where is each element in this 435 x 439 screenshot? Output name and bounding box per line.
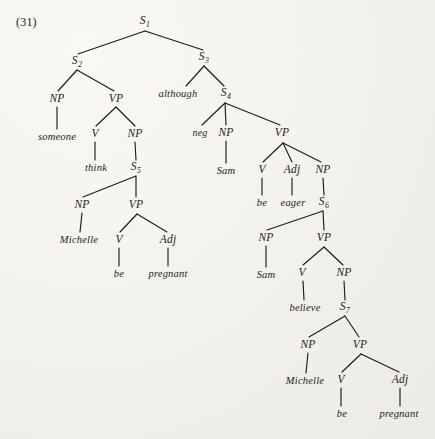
tree-node-label: NP <box>218 126 233 138</box>
tree-node-label: eager <box>281 197 306 208</box>
tree-node-np_someone: NP <box>49 93 64 105</box>
tree-node-label: NP <box>127 127 142 139</box>
tree-node-s1: S1 <box>140 15 150 28</box>
tree-node-pregnant1: pregnant <box>148 269 187 280</box>
tree-node-michelle1: Michelle <box>60 235 98 246</box>
tree-node-label: Michelle <box>60 234 98 245</box>
tree-edge <box>80 213 82 232</box>
tree-node-label: believe <box>289 302 320 313</box>
tree-edge <box>303 247 324 265</box>
tree-node-np_michelle2: NP <box>300 339 315 351</box>
tree-node-label: V <box>91 127 98 139</box>
tree-node-label: V <box>115 233 122 245</box>
tree-node-vp_be1: VP <box>129 199 143 211</box>
tree-node-vp_believe: VP <box>317 232 331 244</box>
tree-node-adj_preg2: Adj <box>392 374 409 386</box>
tree-node-label: VP <box>109 92 123 104</box>
tree-node-label: NP <box>49 92 64 104</box>
tree-edge <box>202 103 225 125</box>
tree-edge <box>324 247 343 265</box>
tree-edge <box>58 70 77 91</box>
tree-node-neg: neg <box>192 128 207 138</box>
tree-node-sam1: Sam <box>217 166 236 177</box>
tree-node-subscript: 2 <box>78 60 82 69</box>
tree-node-v_believe: V <box>298 267 305 279</box>
tree-node-label: pregnant <box>148 268 187 279</box>
tree-node-label: V <box>258 163 265 175</box>
tree-node-v_think: V <box>91 128 98 140</box>
tree-node-label: someone <box>38 131 76 142</box>
tree-node-label: Adj <box>284 163 301 175</box>
tree-node-np_s7: NP <box>336 267 351 279</box>
tree-edge <box>120 214 137 232</box>
tree-edge <box>96 107 116 126</box>
tree-node-someone: someone <box>38 132 76 143</box>
tree-node-adj_eager: Adj <box>284 164 301 176</box>
tree-node-label: NP <box>74 198 89 210</box>
tree-edge <box>225 103 280 125</box>
tree-node-v_be2: V <box>115 234 122 246</box>
tree-node-label: NP <box>336 266 351 278</box>
tree-node-think: think <box>85 163 107 174</box>
tree-node-v_be1: V <box>258 164 265 176</box>
tree-edge <box>225 103 226 125</box>
tree-edge <box>283 143 321 162</box>
tree-node-np_s5: NP <box>127 128 142 140</box>
tree-node-np_michelle1: NP <box>74 199 89 211</box>
tree-node-label: NP <box>315 163 330 175</box>
tree-node-np_sam1: NP <box>218 127 233 139</box>
tree-node-v_be3: V <box>337 374 344 386</box>
tree-node-vp_be2: VP <box>353 339 367 351</box>
tree-node-label: NP <box>258 231 273 243</box>
tree-node-label: VP <box>275 126 289 138</box>
tree-node-subscript: 5 <box>137 166 141 175</box>
tree-node-label: VP <box>353 338 367 350</box>
tree-edge <box>204 66 224 86</box>
tree-edge <box>267 211 323 230</box>
tree-edge <box>135 142 136 160</box>
tree-node-vp_eager: VP <box>275 127 289 139</box>
tree-node-s5: S5 <box>131 161 141 174</box>
tree-branches <box>0 0 435 439</box>
tree-node-subscript: 7 <box>346 306 350 315</box>
tree-node-label: Michelle <box>286 375 324 386</box>
tree-node-be2: be <box>114 269 124 280</box>
tree-node-label: think <box>85 162 107 173</box>
tree-edge <box>303 281 304 300</box>
tree-node-s3: S3 <box>199 51 209 64</box>
tree-node-np_sam2: NP <box>258 232 273 244</box>
tree-edge <box>306 353 308 373</box>
tree-node-vp_think: VP <box>109 93 123 105</box>
tree-node-label: neg <box>192 127 207 138</box>
tree-node-subscript: 3 <box>205 56 209 65</box>
tree-node-label: although <box>159 88 198 99</box>
tree-node-label: pregnant <box>379 408 418 419</box>
tree-node-subscript: 6 <box>325 201 329 210</box>
tree-node-adj_preg1: Adj <box>160 234 177 246</box>
tree-edge <box>116 107 135 126</box>
tree-node-label: Sam <box>257 269 276 280</box>
tree-node-although: although <box>159 89 198 100</box>
tree-node-subscript: 4 <box>227 92 231 101</box>
tree-edge <box>77 70 114 91</box>
tree-node-label: VP <box>129 198 143 210</box>
tree-node-subscript: 1 <box>146 20 150 29</box>
tree-edge <box>342 354 361 372</box>
tree-node-be3: be <box>337 409 347 420</box>
tree-edge <box>361 354 399 372</box>
tree-node-s6: S6 <box>319 196 329 209</box>
tree-node-s2: S2 <box>72 55 82 68</box>
tree-node-s4: S4 <box>221 87 231 100</box>
tree-node-michelle2: Michelle <box>286 376 324 387</box>
tree-edge <box>309 316 345 337</box>
tree-edge <box>83 176 136 197</box>
syntax-tree-figure: (31) S1S2S3NPVPalthoughS4someoneVNPnegNP… <box>0 0 435 439</box>
tree-node-label: Sam <box>217 165 236 176</box>
tree-edge <box>345 316 359 337</box>
tree-node-label: V <box>298 266 305 278</box>
tree-node-label: Adj <box>392 373 409 385</box>
tree-node-s7: S7 <box>340 301 350 314</box>
tree-node-sam2: Sam <box>257 270 276 281</box>
tree-edge <box>263 143 283 162</box>
tree-node-be1: be <box>257 198 267 209</box>
